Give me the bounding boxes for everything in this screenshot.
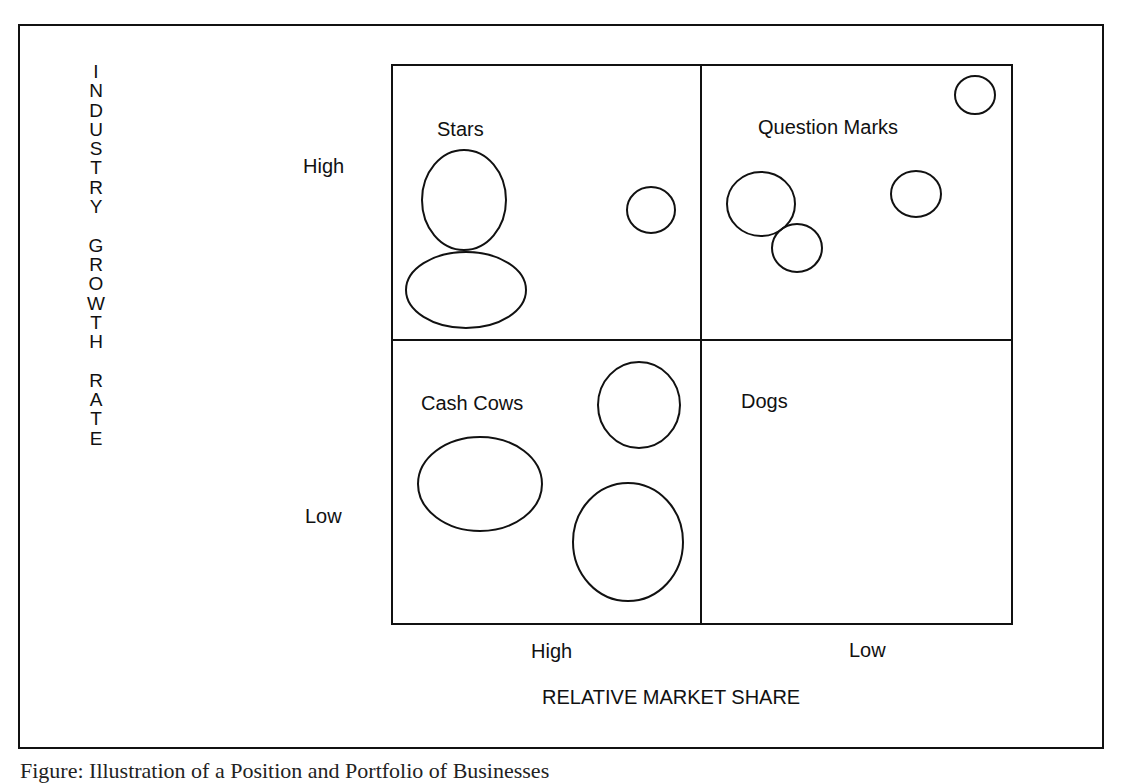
bubble-stars (627, 187, 675, 233)
figure-caption: Figure: Illustration of a Position and P… (20, 758, 549, 784)
bubble-cash-cows (573, 483, 683, 601)
quadrant-label-dogs: Dogs (741, 390, 788, 413)
x-axis-title: RELATIVE MARKET SHARE (542, 686, 800, 709)
bubble-cash-cows (418, 437, 542, 531)
x-tick-low: Low (849, 639, 886, 662)
quadrant-label-question-marks: Question Marks (758, 116, 898, 139)
bubble-question-marks (891, 171, 941, 217)
bubble-question-marks (955, 76, 995, 114)
quadrant-label-cash-cows: Cash Cows (421, 392, 523, 415)
bubble-stars (422, 150, 506, 250)
bubble-stars (406, 252, 526, 328)
quadrant-label-stars: Stars (437, 118, 484, 141)
bubble-cash-cows (598, 362, 680, 448)
bubble-question-marks (772, 224, 822, 272)
x-tick-high: High (531, 640, 572, 663)
